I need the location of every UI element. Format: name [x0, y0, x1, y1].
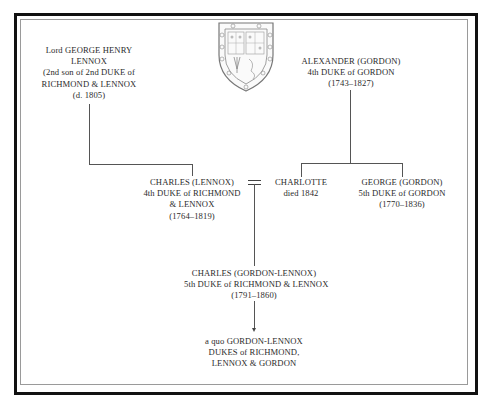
node-descendants: a quo GORDON-LENNOX DUKES of RICHMOND, L… — [194, 336, 314, 370]
connector-george-henry-across — [89, 164, 192, 165]
node-charlotte: CHARLOTTE died 1842 — [272, 177, 330, 199]
connector-descent-arrow — [254, 301, 255, 329]
arrow-down-icon — [252, 328, 256, 332]
node-charles-gordon-lennox: CHARLES (GORDON-LENNOX) 5th DUKE of RICH… — [184, 268, 324, 302]
connector-to-george-gordon — [402, 163, 403, 177]
node-lord-george-henry-lennox: Lord GEORGE HENRY LENNOX (2nd son of 2nd… — [30, 45, 148, 101]
shield-icon — [217, 21, 275, 93]
connector-george-henry-down — [89, 104, 90, 164]
connector-to-charles-lennox — [192, 164, 193, 176]
node-charles-lennox: CHARLES (LENNOX) 4th DUKE of RICHMOND & … — [142, 177, 242, 222]
connector-alexander-children — [301, 163, 403, 164]
connector-marriage-issue — [254, 184, 255, 266]
node-george-gordon: GEORGE (GORDON) 5th DUKE of GORDON (1770… — [354, 177, 450, 211]
connector-to-charlotte — [301, 163, 302, 177]
marriage-sign-top — [248, 180, 261, 181]
connector-alexander-down — [350, 90, 351, 163]
node-alexander-gordon: ALEXANDER (GORDON) 4th DUKE of GORDON (1… — [295, 56, 407, 90]
